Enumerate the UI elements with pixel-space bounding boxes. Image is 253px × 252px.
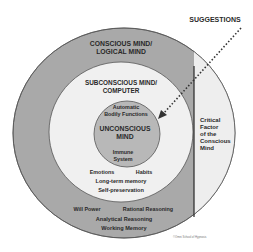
credit-text: ©Omni School of Hypnosis [173, 235, 207, 239]
computer-title: COMPUTER [103, 87, 140, 94]
working-memory-label: Working Memory [101, 225, 147, 231]
subconscious-mind-title: SUBCONSCIOUS MIND/ [85, 79, 157, 86]
system-label: System [113, 156, 132, 162]
critical-factor-label-3: of the [200, 131, 217, 137]
critical-factor-label-5: Mind [200, 145, 214, 151]
immune-label: Immune [113, 149, 134, 155]
analytical-reasoning-label: Analytical Reasoning [96, 216, 153, 222]
unconscious-title: UNCONSCIOUS [100, 125, 151, 132]
suggestions-label: SUGGESTIONS [189, 16, 241, 23]
mind-title: MIND [116, 133, 133, 140]
logical-mind-title: LOGICAL MIND [96, 48, 146, 55]
long-term-memory-label: Long-term memory [96, 178, 148, 184]
automatic-label: Automatic [113, 104, 139, 110]
will-power-label: Will Power [73, 206, 101, 212]
bodily-functions-label: Bodily Functions [104, 111, 148, 117]
mind-model-diagram: SUGGESTIONS CONSCIOUS MIND/ LOGICAL MIND… [0, 0, 253, 252]
critical-factor-label-4: Conscious [200, 138, 231, 144]
critical-factor-label-1: Critical [200, 117, 221, 123]
rational-reasoning-label: Rational Reasoning [123, 206, 173, 212]
conscious-mind-title: CONSCIOUS MIND/ [90, 40, 152, 47]
emotions-label: Emotions [90, 169, 115, 175]
self-preservation-label: Self-preservation [98, 187, 144, 193]
critical-factor-label-2: Factor [200, 124, 219, 130]
habits-label: Habits [136, 169, 152, 175]
